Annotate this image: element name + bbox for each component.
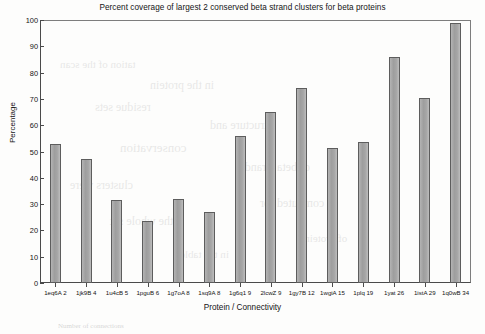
bar (296, 88, 307, 283)
x-axis-tick-label: 1eq6A 2 (44, 289, 66, 296)
x-axis-tick-mark (363, 283, 364, 287)
bar (142, 221, 153, 283)
bar (265, 112, 276, 283)
plot-area (40, 20, 471, 283)
y-axis-tick-mark (40, 257, 44, 258)
bar (419, 98, 430, 283)
y-axis-tick-label: 60 (0, 121, 38, 130)
y-axis-tick-mark (40, 99, 44, 100)
x-axis-tick-label: 1gy7B 12 (289, 289, 315, 296)
y-axis-tick-mark (40, 178, 44, 179)
x-axis-tick-label: 1plq 19 (353, 289, 373, 296)
y-axis-tick-label: 90 (0, 42, 38, 51)
x-axis-tick-label: 1sq9A 8 (198, 289, 220, 296)
figure-bottom-note: Number of connections (58, 322, 124, 330)
x-axis-tick-mark (394, 283, 395, 287)
bar (450, 23, 461, 283)
y-axis-tick-mark (40, 152, 44, 153)
y-axis-tick-mark (40, 125, 44, 126)
x-axis-tick-mark (302, 283, 303, 287)
x-axis-tick-mark (148, 283, 149, 287)
x-axis-tick-label: 2lcwZ 9 (260, 289, 281, 296)
y-axis-tick-mark (40, 46, 44, 47)
x-axis-tick-label: 1q0wB 34 (442, 289, 469, 296)
x-axis-tick-label: 1pguB 6 (136, 289, 159, 296)
y-axis-tick-mark (40, 230, 44, 231)
bar (204, 212, 215, 283)
y-axis-tick-label: 100 (0, 16, 38, 25)
y-axis-tick-label: 40 (0, 173, 38, 182)
x-axis-tick-label: 1istA 29 (414, 289, 436, 296)
x-axis-tick-mark (179, 283, 180, 287)
x-axis-tick-mark (209, 283, 210, 287)
bar (327, 148, 338, 283)
x-axis-tick-mark (425, 283, 426, 287)
y-axis-tick-label: 80 (0, 68, 38, 77)
bar (111, 200, 122, 283)
x-axis-tick-mark (271, 283, 272, 287)
y-axis-tick-label: 70 (0, 94, 38, 103)
x-axis-tick-label: 1jk9B 4 (76, 289, 96, 296)
y-axis-tick-label: 50 (0, 147, 38, 156)
x-axis-tick-label: 1wgiA 15 (320, 289, 345, 296)
x-axis-tick-label: 1g7oA 8 (167, 289, 189, 296)
y-axis-tick-label: 10 (0, 252, 38, 261)
y-axis-tick-label: 20 (0, 226, 38, 235)
x-axis-tick-mark (86, 283, 87, 287)
x-axis-tick-mark (332, 283, 333, 287)
y-axis-tick-mark (40, 204, 44, 205)
y-axis-tick-label: 0 (0, 279, 38, 288)
x-axis-tick-label: 1yat 26 (384, 289, 404, 296)
x-axis-tick-label: 1g6q1 9 (229, 289, 251, 296)
bar (173, 199, 184, 283)
bar (235, 136, 246, 283)
y-axis-tick-mark (40, 283, 44, 284)
x-axis-tick-mark (456, 283, 457, 287)
y-axis-tick-label: 30 (0, 200, 38, 209)
x-axis-tick-mark (117, 283, 118, 287)
bar (50, 144, 61, 283)
bar (81, 159, 92, 283)
bar (358, 142, 369, 283)
chart-title: Percent coverage of largest 2 conserved … (0, 3, 485, 12)
x-axis-tick-label: 1u4cB 5 (106, 289, 128, 296)
bar (389, 57, 400, 283)
y-axis-tick-mark (40, 73, 44, 74)
y-axis-tick-mark (40, 20, 44, 21)
x-axis-tick-mark (55, 283, 56, 287)
x-axis-label: Protein / Connectivity (0, 303, 485, 312)
bar-chart-figure: Percent coverage of largest 2 conserved … (0, 0, 485, 334)
x-axis-tick-mark (240, 283, 241, 287)
